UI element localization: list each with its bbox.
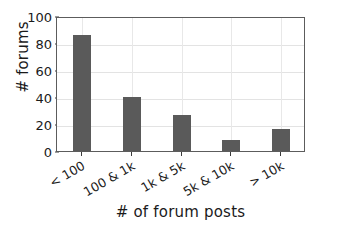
bar-chart-figure: # forums 020406080100 < 100100 & 1k1k & … — [0, 0, 350, 232]
y-tick-label: 20 — [35, 119, 52, 132]
y-tick-label: 80 — [35, 38, 52, 51]
bar — [73, 35, 91, 151]
y-tick-label: 40 — [35, 92, 52, 105]
x-axis-title: # of forum posts — [56, 203, 305, 221]
x-axis-tick-labels: < 100100 & 1k1k & 5k5k & 10k> 10k — [56, 152, 305, 198]
bar-series — [57, 18, 304, 151]
y-tick-label: 0 — [44, 146, 52, 159]
bar — [123, 97, 141, 151]
bar — [272, 129, 290, 151]
bar — [222, 140, 240, 151]
y-tick-label: 100 — [27, 11, 52, 24]
y-axis-tick-labels: 020406080100 — [22, 17, 52, 152]
y-tick-label: 60 — [35, 65, 52, 78]
bar — [173, 115, 191, 151]
plot-area — [56, 17, 305, 152]
